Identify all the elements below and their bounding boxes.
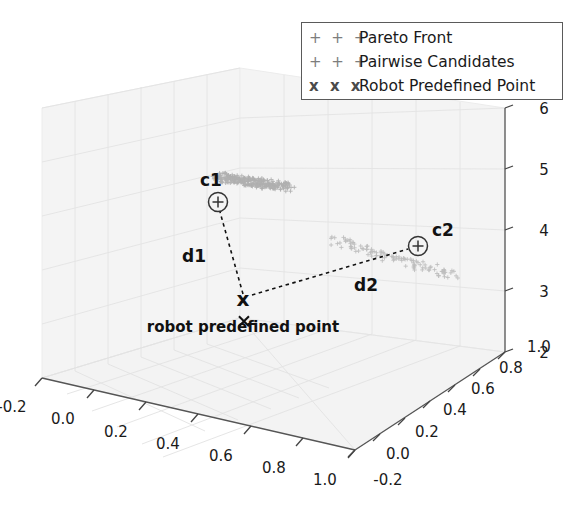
legend-label-robot-predefined-point: Robot Predefined Point [359,77,535,95]
legend-box: + + + Pareto Front + + + Pairwise Candid… [301,22,563,100]
pane-right-wall [240,68,505,352]
x-tick-6: 1.0 [313,471,337,489]
legend-label-pairwise-candidates: Pairwise Candidates [359,53,515,71]
legend-entry-pairwise-candidates: + + + Pairwise Candidates [309,50,555,74]
x-tick-3: 0.4 [156,435,180,453]
z-axis-tick-labels: 2 3 4 5 6 [539,100,549,362]
z-tick-4: 6 [539,100,549,118]
annotation-label-c1: c1 [200,170,222,190]
x-tick-1: 0.0 [51,410,75,428]
legend-marker-plus-icon: + + + [309,53,359,71]
x-tick-5: 0.8 [262,459,286,477]
y-tick-4: 0.6 [471,380,495,398]
figure-canvas: -0.2 0.0 0.2 0.4 0.6 0.8 1.0 -0.2 0.0 0.… [0,0,581,519]
legend-entry-pareto-front: + + + Pareto Front [309,26,555,50]
x-tick-4: 0.6 [209,447,233,465]
y-tick-3: 0.4 [443,401,467,419]
y-tick-1: 0.0 [386,445,410,463]
z-tick-0: 2 [539,344,549,362]
x-tick-0: -0.2 [0,398,27,416]
legend-entry-robot-predefined-point: x x x Robot Predefined Point [309,74,555,98]
legend-label-pareto-front: Pareto Front [359,29,452,47]
z-tick-2: 4 [539,222,549,240]
z-axis-ticks [505,105,513,352]
robot-point-marker: x [237,287,250,311]
z-tick-1: 3 [539,283,549,301]
legend-marker-x-icon: x x x [309,77,359,95]
y-tick-0: -0.2 [373,471,402,489]
legend-marker-plus-icon: + + + [309,29,359,47]
y-tick-5: 0.8 [499,359,523,377]
y-tick-2: 0.2 [415,423,439,441]
x-tick-2: 0.2 [104,423,128,441]
z-tick-3: 5 [539,161,549,179]
annotation-label-d2: d2 [354,275,378,295]
annotation-label-d1: d1 [182,246,206,266]
robot-point-caption: robot predefined point [147,318,339,336]
annotation-label-c2: c2 [432,220,454,240]
